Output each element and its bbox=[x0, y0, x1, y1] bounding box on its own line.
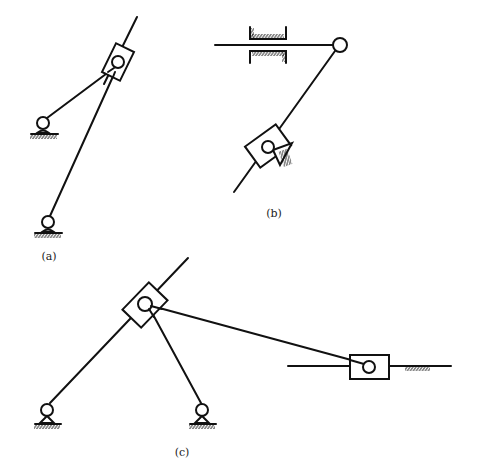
ground-hatch bbox=[34, 234, 61, 238]
mechanism-diagram bbox=[0, 0, 484, 473]
panel-b-end-pivot bbox=[333, 38, 347, 52]
panel-b bbox=[215, 27, 347, 192]
panel-c-link-short bbox=[150, 309, 201, 403]
bearing-right-hatch bbox=[282, 52, 285, 62]
bearing-left-hatch bbox=[251, 28, 254, 38]
panel-b-slider-pin bbox=[262, 141, 274, 153]
panel-a-link-1 bbox=[47, 68, 114, 118]
panel-a-slider-pin bbox=[112, 56, 124, 68]
pivot-support-triangle bbox=[42, 230, 54, 233]
pivot-support-triangle bbox=[195, 416, 209, 423]
pivot-circle bbox=[42, 216, 54, 228]
ground-hatch bbox=[189, 425, 215, 429]
panel-b-diagonal-rod bbox=[234, 51, 335, 192]
panel-a-ground-pivot-1 bbox=[30, 117, 58, 139]
panel-a-label: (a) bbox=[41, 250, 56, 263]
panel-c-link-long bbox=[152, 306, 366, 364]
pivot-support-triangle bbox=[40, 416, 54, 423]
panel-a-link-2 bbox=[50, 72, 115, 216]
panel-c-guide-rod bbox=[50, 258, 188, 403]
panel-c-label: (c) bbox=[175, 446, 190, 459]
panel-a bbox=[30, 17, 137, 238]
panel-c-ground-pivot-1 bbox=[34, 404, 61, 429]
bearing-upper-hatch bbox=[252, 34, 284, 38]
panel-c bbox=[34, 258, 451, 429]
panel-c-rail-slider-pin bbox=[363, 361, 375, 373]
pivot-circle bbox=[196, 404, 208, 416]
pivot-circle bbox=[37, 117, 49, 129]
panel-a-ground-pivot-2 bbox=[34, 216, 62, 238]
pivot-support-triangle bbox=[37, 131, 49, 134]
panel-b-label: (b) bbox=[266, 207, 282, 220]
ground-hatch bbox=[30, 135, 57, 139]
panel-c-ground-pivot-2 bbox=[189, 404, 216, 429]
pivot-circle bbox=[41, 404, 53, 416]
ground-hatch bbox=[34, 425, 60, 429]
bearing-lower-hatch bbox=[252, 52, 284, 56]
panel-c-rail-hatch bbox=[405, 367, 430, 371]
